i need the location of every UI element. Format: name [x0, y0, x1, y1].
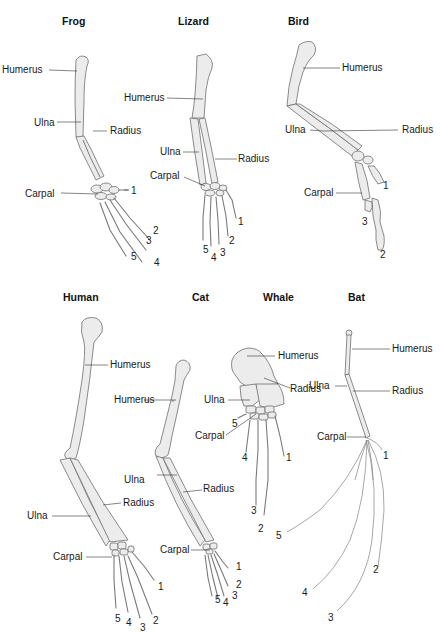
digit-4-label: 4 — [211, 252, 217, 263]
label-radius: Radius — [392, 385, 423, 396]
radius-bone — [296, 104, 362, 150]
label-ulna: Ulna — [34, 117, 55, 128]
humerus-bone — [192, 54, 212, 118]
digit-5-label: 5 — [276, 530, 282, 541]
carpal-bones — [110, 542, 134, 556]
carpal-bones — [201, 183, 227, 197]
label-ulna: Ulna — [27, 510, 48, 521]
label-radius: Radius — [402, 124, 433, 135]
label-humerus: Humerus — [278, 350, 319, 361]
digit-1-label: 1 — [383, 180, 389, 191]
panel-bat: Bat Humerus Ulna Radius Carpal 1 2 3 4 5 — [276, 291, 433, 623]
humerus-bone — [65, 318, 103, 461]
digit-3-label: 3 — [232, 590, 238, 601]
label-carpal: Carpal — [150, 170, 179, 181]
digit-1-label: 1 — [131, 185, 137, 196]
panel-title: Lizard — [178, 15, 209, 27]
panel-cat: Cat Humerus Ulna Radius Carpal 1 2 3 4 5 — [114, 291, 242, 608]
digit-3-label: 3 — [220, 247, 226, 258]
digit-2-label: 2 — [236, 579, 242, 590]
humerus-bone — [287, 41, 316, 106]
digit-2-bone — [372, 198, 384, 250]
label-carpal: Carpal — [317, 431, 346, 442]
panel-lizard: Lizard Humerus Ulna Radius Carpal 1 2 3 … — [124, 15, 269, 263]
label-carpal: Carpal — [160, 544, 189, 555]
label-carpal: Carpal — [304, 187, 333, 198]
digit-4-label: 4 — [154, 257, 160, 268]
digits — [100, 190, 150, 262]
digit-3-label: 3 — [140, 622, 146, 633]
radius-bone — [256, 384, 284, 408]
panel-title: Bird — [288, 15, 309, 27]
label-radius: Radius — [238, 153, 269, 164]
digit-2-label: 2 — [258, 523, 264, 534]
label-humerus: Humerus — [124, 92, 165, 103]
label-ulna: Ulna — [160, 146, 181, 157]
label-radius: Radius — [123, 497, 154, 508]
digit-2-label: 2 — [373, 564, 379, 575]
digit-2-label: 2 — [153, 615, 159, 626]
panel-title: Frog — [62, 15, 85, 27]
humerus-bone — [345, 335, 351, 375]
carpal-bones — [91, 183, 119, 200]
digit-2-label: 2 — [229, 235, 235, 246]
label-ulna: Ulna — [285, 124, 306, 135]
label-humerus: Humerus — [110, 359, 151, 370]
digit-5-label: 5 — [203, 244, 209, 255]
humerus-bone — [75, 56, 88, 138]
digit-4-label: 4 — [302, 587, 308, 598]
digit-3-label: 3 — [251, 505, 257, 516]
radioulna-bone — [76, 136, 104, 180]
label-humerus: Humerus — [114, 394, 155, 405]
panel-title: Bat — [348, 291, 365, 303]
digit-5-label: 5 — [232, 418, 238, 429]
radius-bone — [345, 374, 370, 438]
digits — [205, 551, 228, 598]
digits — [238, 414, 284, 515]
label-carpal: Carpal — [195, 430, 224, 441]
humerus-bone — [232, 348, 279, 386]
label-ulna: Ulna — [124, 474, 145, 485]
carpal-bones — [203, 543, 217, 554]
digit-2-label: 2 — [153, 225, 159, 236]
digit-3-bone — [365, 200, 372, 212]
panel-human: Human Humerus Ulna Radius Carpal 1 2 3 4 — [27, 291, 164, 633]
digit-1-label: 1 — [236, 561, 242, 572]
digit-5-label: 5 — [215, 594, 221, 605]
panel-title: Cat — [192, 291, 209, 303]
digit-1-label: 1 — [286, 452, 292, 463]
digit-4-label: 4 — [126, 617, 132, 628]
panel-title: Whale — [263, 291, 294, 303]
carpometacarpus-bone — [355, 162, 370, 200]
label-humerus: Humerus — [342, 62, 383, 73]
radius-bone — [163, 458, 214, 542]
ulna-bone — [156, 456, 205, 546]
label-carpal: Carpal — [53, 551, 82, 562]
label-humerus: Humerus — [2, 64, 43, 75]
panel-bird: Bird Humerus Ulna Radius Carpal 1 2 3 — [285, 15, 433, 260]
digit-3-label: 3 — [146, 235, 152, 246]
panel-title: Human — [63, 291, 99, 303]
label-ulna: Ulna — [204, 394, 225, 405]
digit-1-label: 1 — [158, 581, 164, 592]
wing-digits — [287, 438, 384, 611]
panel-frog: Frog Humerus Ulna Radius Carp — [2, 15, 160, 268]
label-ulna: Ulna — [309, 380, 330, 391]
digit-2-label: 2 — [380, 249, 386, 260]
humerus-bone — [155, 360, 190, 458]
label-humerus: Humerus — [392, 343, 433, 354]
digit-3-label: 3 — [362, 216, 368, 227]
label-carpal: Carpal — [25, 188, 54, 199]
panel-whale: Whale Humerus Ulna Radius Carpal 1 2 3 — [195, 291, 321, 534]
digit-3-label: 3 — [328, 612, 334, 623]
digit-4-label: 4 — [223, 597, 229, 608]
digit-4-label: 4 — [242, 452, 248, 463]
digits — [114, 552, 154, 618]
label-radius: Radius — [110, 125, 141, 136]
digit-1-label: 1 — [238, 216, 244, 227]
digit-1-label: 1 — [383, 450, 389, 461]
label-radius: Radius — [203, 483, 234, 494]
digit-1-bone — [368, 166, 384, 184]
forelimb-diagram: Frog Humerus Ulna Radius Carp — [0, 0, 440, 633]
digit-5-label: 5 — [131, 251, 137, 262]
